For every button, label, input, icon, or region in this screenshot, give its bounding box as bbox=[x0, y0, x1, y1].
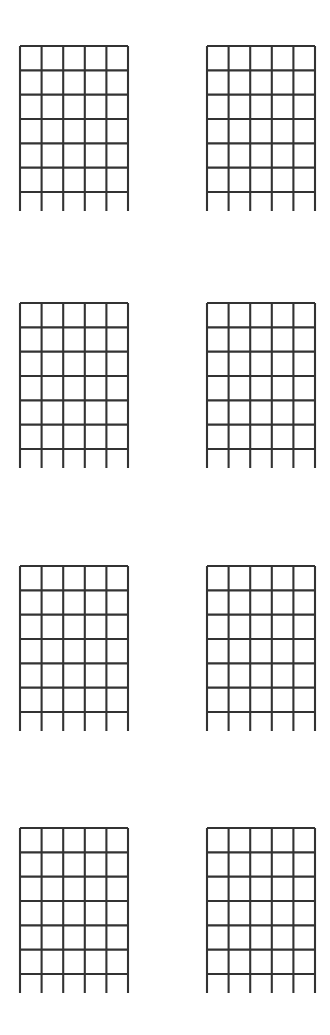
fretboard-graphic bbox=[207, 828, 315, 993]
chord-diagram[interactable] bbox=[207, 46, 315, 211]
chord-diagram[interactable] bbox=[207, 303, 315, 468]
fretboard-graphic bbox=[207, 566, 315, 731]
chord-diagram[interactable] bbox=[20, 303, 128, 468]
fretboard-graphic bbox=[20, 566, 128, 731]
chord-diagram-row bbox=[0, 303, 330, 478]
chord-diagram[interactable] bbox=[207, 828, 315, 993]
chord-diagram[interactable] bbox=[20, 566, 128, 731]
chord-chart-sheet bbox=[0, 0, 330, 1035]
fretboard-graphic bbox=[20, 46, 128, 211]
fretboard-graphic bbox=[20, 828, 128, 993]
chord-diagram-row bbox=[0, 566, 330, 741]
fretboard-graphic bbox=[207, 303, 315, 468]
chord-diagram[interactable] bbox=[20, 46, 128, 211]
chord-diagram[interactable] bbox=[20, 828, 128, 993]
chord-diagram-row bbox=[0, 46, 330, 221]
chord-diagram[interactable] bbox=[207, 566, 315, 731]
fretboard-graphic bbox=[20, 303, 128, 468]
chord-diagram-row bbox=[0, 828, 330, 1003]
fretboard-graphic bbox=[207, 46, 315, 211]
